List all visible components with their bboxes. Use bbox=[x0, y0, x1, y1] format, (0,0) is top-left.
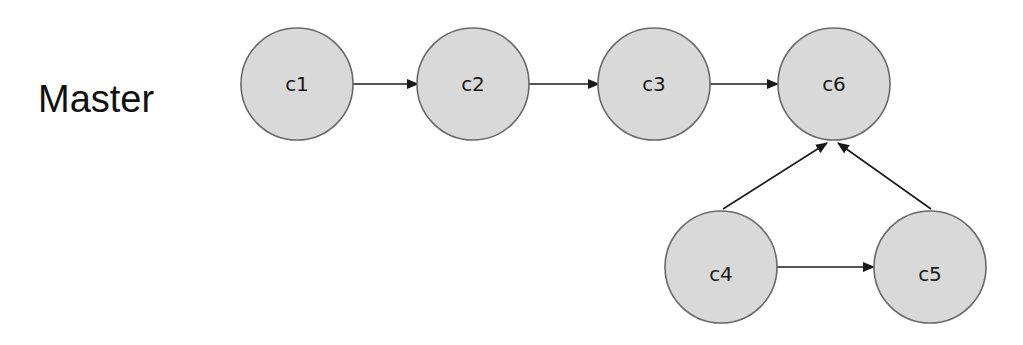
commit-node-c6[interactable]: c6 bbox=[778, 28, 890, 140]
edge-c5-c6 bbox=[838, 143, 931, 209]
edge-c4-c6 bbox=[723, 143, 827, 209]
commit-label: c5 bbox=[918, 262, 942, 286]
commit-label: c4 bbox=[709, 262, 733, 286]
commit-node-c1[interactable]: c1 bbox=[241, 28, 353, 140]
commit-label: c3 bbox=[642, 72, 666, 96]
commit-node-c5[interactable]: c5 bbox=[874, 211, 986, 323]
commit-label: c1 bbox=[285, 72, 309, 96]
commit-label: c2 bbox=[461, 72, 485, 96]
commit-label: c6 bbox=[822, 72, 846, 96]
commit-graph: c1 c2 c3 c6 c4 c5 bbox=[0, 0, 1023, 345]
commit-node-c2[interactable]: c2 bbox=[417, 28, 529, 140]
commit-node-c4[interactable]: c4 bbox=[665, 211, 777, 323]
commit-node-c3[interactable]: c3 bbox=[598, 28, 710, 140]
